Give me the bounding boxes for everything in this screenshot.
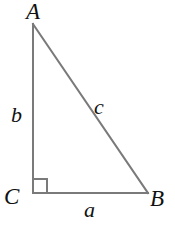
vertex-label-b: B — [150, 187, 164, 210]
segment-c-hypotenuse — [33, 24, 148, 193]
side-label-b: b — [11, 104, 22, 126]
triangle-drawing — [0, 0, 175, 230]
vertex-label-a: A — [26, 0, 40, 23]
side-label-c: c — [94, 96, 104, 118]
right-triangle-figure: A B C a b c — [0, 0, 175, 230]
vertex-label-c: C — [4, 185, 19, 208]
side-label-a: a — [84, 199, 95, 221]
right-angle-square-icon — [33, 179, 47, 193]
